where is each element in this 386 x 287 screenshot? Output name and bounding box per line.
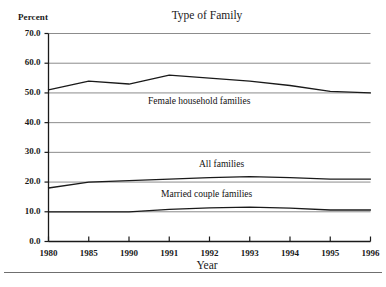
- series-annotation: Married couple families: [161, 189, 252, 199]
- x-tick-label: 1990: [107, 248, 151, 258]
- y-tick-label: 0.0: [1, 236, 41, 246]
- chart-figure: Percent Type of Family Year 70.060.050.0…: [0, 0, 386, 287]
- x-tick-label: 1994: [268, 248, 312, 258]
- series-annotation: All families: [199, 159, 244, 169]
- x-axis-title-text: Year: [196, 259, 217, 271]
- chart-title: Type of Family: [0, 9, 386, 21]
- plot-area: [0, 0, 386, 287]
- x-tick-label: 1996: [349, 248, 386, 258]
- x-tick-label: 1991: [147, 248, 191, 258]
- y-tick-label: 20.0: [1, 176, 41, 186]
- x-tick-label: 1980: [27, 248, 71, 258]
- y-tick-label: 70.0: [1, 28, 41, 38]
- y-tick-label: 10.0: [1, 206, 41, 216]
- series-annotation: Female household families: [148, 96, 250, 106]
- y-tick-label: 40.0: [1, 117, 41, 127]
- footer-divider: [4, 272, 382, 273]
- y-tick-label: 60.0: [1, 57, 41, 67]
- y-tick-label: 30.0: [1, 146, 41, 156]
- x-axis-title: Year: [0, 259, 386, 271]
- x-tick-label: 1993: [228, 248, 272, 258]
- y-tick-label: 50.0: [1, 87, 41, 97]
- chart-title-text: Type of Family: [172, 9, 243, 21]
- x-tick-label: 1992: [188, 248, 232, 258]
- x-tick-label: 1995: [308, 248, 352, 258]
- x-tick-label: 1985: [67, 248, 111, 258]
